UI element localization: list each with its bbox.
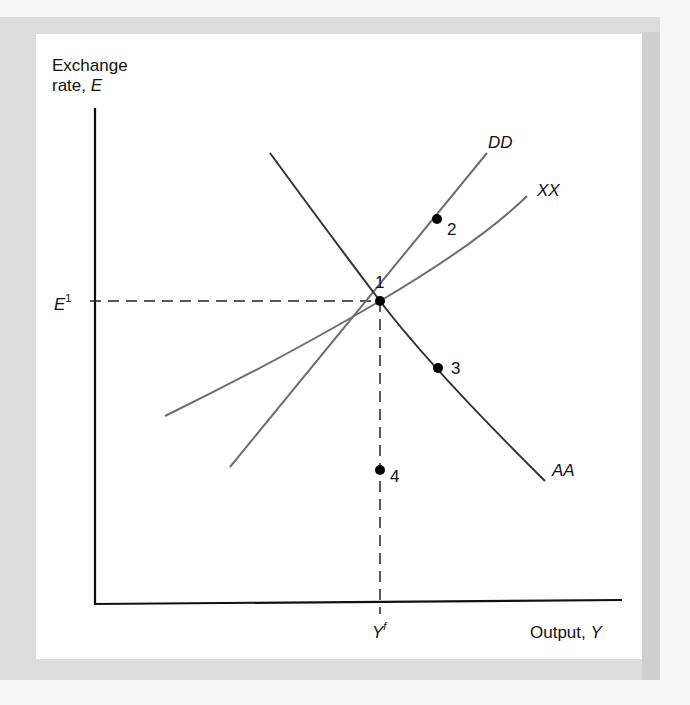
dd-label: DD	[488, 133, 513, 152]
aa-curve	[270, 153, 545, 481]
y-axis-label-line1: Exchange	[52, 56, 128, 75]
point-1	[375, 296, 385, 306]
yf-label: Yf	[372, 620, 387, 642]
x-axis-label: Output, Y	[530, 623, 603, 642]
aa-label: AA	[551, 461, 575, 480]
x-axis	[94, 600, 622, 604]
point-4	[375, 465, 385, 475]
point-3-label: 3	[451, 359, 460, 378]
point-4-label: 4	[390, 467, 399, 486]
figure-page: Exchange rate, E E1 Yf Output, Y DD XX A…	[0, 0, 690, 705]
dd-curve	[230, 153, 487, 467]
xx-curve	[165, 196, 527, 416]
point-2	[432, 214, 442, 224]
e1-label: E1	[54, 292, 71, 314]
xx-label: XX	[536, 181, 560, 200]
point-1-label: 1	[375, 273, 384, 292]
y-axis-label-line2: rate, E	[52, 76, 103, 95]
point-2-label: 2	[447, 220, 456, 239]
point-3	[433, 363, 443, 373]
diagram-canvas: Exchange rate, E E1 Yf Output, Y DD XX A…	[0, 0, 690, 705]
